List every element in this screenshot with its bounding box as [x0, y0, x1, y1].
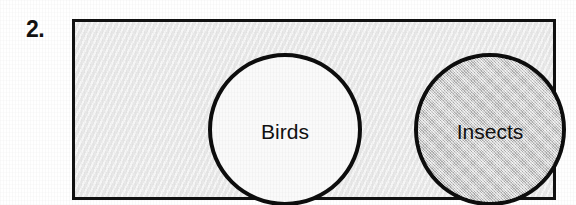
universe-rectangle: Birds Insects	[72, 19, 556, 200]
set-label-insects: Insects	[457, 121, 524, 142]
set-circle-insects: Insects	[414, 53, 566, 205]
set-circle-birds: Birds	[208, 53, 362, 205]
item-number-label: 2.	[26, 18, 44, 41]
set-label-birds: Birds	[261, 121, 309, 142]
worksheet-page: 2. Birds Insects	[0, 0, 576, 205]
